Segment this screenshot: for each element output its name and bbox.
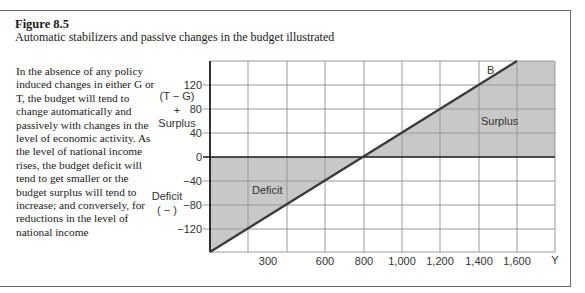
y-tick: 80 bbox=[190, 103, 202, 115]
y-tick: −40 bbox=[183, 175, 202, 187]
x-tick: 1,400 bbox=[465, 255, 493, 267]
x-tick: 800 bbox=[355, 255, 373, 267]
x-tick: 300 bbox=[259, 255, 277, 267]
x-tick: 600 bbox=[316, 255, 334, 267]
x-tick: 1,200 bbox=[426, 255, 454, 267]
y-tick: −80 bbox=[183, 199, 202, 211]
line-label-b: B bbox=[487, 64, 494, 76]
y-tick-labels: 120 80 40 0 −40 −80 −120 bbox=[177, 79, 202, 235]
y-tick: 0 bbox=[196, 151, 202, 163]
x-tick: 1,600 bbox=[503, 255, 531, 267]
x-tick: 1,000 bbox=[388, 255, 416, 267]
x-axis-label: Y bbox=[551, 254, 559, 266]
deficit-label: Deficit bbox=[252, 184, 283, 196]
y-tick: 40 bbox=[190, 127, 202, 139]
x-tick-labels: 300 600 800 1,000 1,200 1,400 1,600 Y bbox=[259, 254, 560, 267]
y-tick: −120 bbox=[177, 223, 202, 235]
budget-chart: 120 80 40 0 −40 −80 −120 300 600 800 1,0… bbox=[0, 0, 585, 293]
surplus-label: Surplus bbox=[481, 115, 519, 127]
y-tick: 120 bbox=[184, 79, 202, 91]
